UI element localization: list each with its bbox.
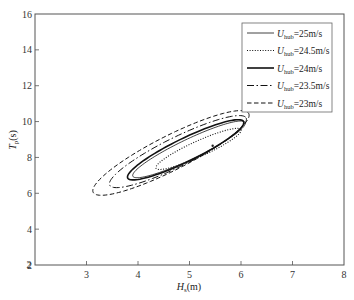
legend-label: Uhub=25m/s [277, 29, 323, 40]
x-tick-label: 6 [239, 269, 244, 280]
y-tick-label: 4 [27, 224, 32, 235]
contour-dashed [93, 111, 249, 196]
y-tick-label: 16 [22, 9, 32, 20]
y-tick-label: 12 [22, 80, 32, 91]
y-axis: 246810121416 [22, 9, 39, 271]
legend: Uhub=25m/sUhub=24.5m/sUhub=24m/sUhub=23.… [242, 23, 332, 112]
chart: 2345678 246810121416 Hs(m) Tp(s) Uhub=25… [0, 0, 354, 300]
y-tick-label: 14 [22, 44, 32, 55]
contour-solid-thin [133, 121, 246, 178]
y-tick-label: 10 [22, 116, 32, 127]
center-point [211, 145, 213, 147]
x-tick-label: 3 [84, 269, 89, 280]
legend-label: Uhub=23m/s [277, 99, 323, 110]
contour-dash-dot [109, 116, 246, 188]
x-axis: 2345678 [27, 259, 347, 280]
x-tick-label: 8 [342, 269, 347, 280]
x-axis-label: Hs(m) [176, 281, 201, 294]
x-tick-label: 5 [187, 269, 192, 280]
y-tick-label: 6 [27, 188, 32, 199]
y-tick-label: 2 [27, 260, 32, 271]
contour-solid-thick [127, 120, 243, 180]
contours [93, 111, 249, 196]
x-tick-label: 7 [290, 269, 295, 280]
y-tick-label: 8 [27, 152, 32, 163]
legend-label: Uhub=24m/s [277, 64, 323, 75]
y-axis-label: Tp(s) [7, 130, 20, 150]
x-tick-label: 4 [136, 269, 141, 280]
